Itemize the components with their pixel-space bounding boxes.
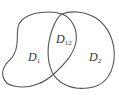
label-d1: D1 bbox=[28, 51, 40, 65]
region-d2-outline bbox=[48, 12, 114, 88]
region-d1-outline bbox=[3, 12, 77, 87]
label-d2: D2 bbox=[89, 51, 101, 65]
venn-diagram: D1 D2 D12 bbox=[0, 0, 119, 101]
label-d12: D12 bbox=[56, 33, 72, 47]
